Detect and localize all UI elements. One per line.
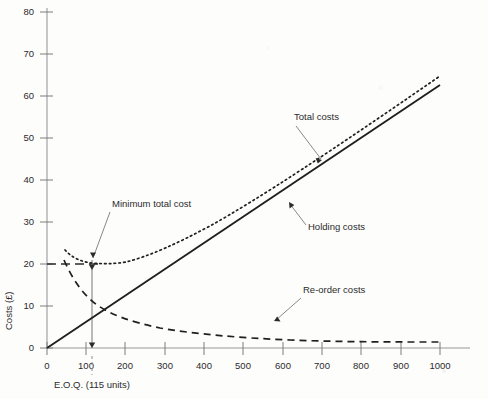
x-tick-label-700: 700 <box>314 360 330 371</box>
series-reorder-costs <box>64 260 440 342</box>
series-holding-costs <box>47 85 440 348</box>
annotation-label-holding-costs: Holding costs <box>308 221 365 232</box>
y-tick-label-70: 70 <box>23 48 34 59</box>
x-axis-tick-labels: 0 100 200 300 400 500 600 700 800 900 10… <box>44 360 450 371</box>
y-tick-label-10: 10 <box>23 300 34 311</box>
x-tick-label-300: 300 <box>157 360 173 371</box>
annotation-reorder-costs: Re-order costs <box>274 284 366 322</box>
y-tick-label-0: 0 <box>29 342 34 353</box>
leader-line-total-costs <box>296 126 321 159</box>
leader-line-reorder-costs <box>276 298 301 320</box>
arrowhead-minimum-total-cost <box>90 253 96 259</box>
y-axis-tick-labels: 80 70 60 50 40 30 20 10 0 <box>23 6 34 353</box>
eoq-label: E.O.Q. (115 units) <box>54 379 130 390</box>
y-tick-label-40: 40 <box>23 174 34 185</box>
y-tick-label-30: 30 <box>23 216 34 227</box>
y-tick-label-60: 60 <box>23 90 34 101</box>
arrowhead-eoq-axis <box>89 343 95 348</box>
annotation-total-costs: Total costs <box>294 111 339 164</box>
y-tick-label-80: 80 <box>23 6 34 17</box>
x-tick-label-600: 600 <box>275 360 291 371</box>
axes <box>47 8 470 349</box>
annotation-label-reorder-costs: Re-order costs <box>303 284 366 295</box>
x-tick-label-900: 900 <box>393 360 409 371</box>
annotation-label-total-costs: Total costs <box>294 111 339 122</box>
y-tick-label-20: 20 <box>23 258 34 269</box>
eoq-cost-chart: 80 70 60 50 40 30 20 10 0 0 100 200 300 … <box>0 0 488 399</box>
x-tick-label-200: 200 <box>117 360 133 371</box>
y-axis-title: Costs (£) <box>3 291 14 330</box>
annotation-label-minimum-total-cost: Minimum total cost <box>112 198 192 209</box>
annotation-minimum-total-cost: Minimum total cost <box>89 198 192 270</box>
leader-line-minimum-total-cost <box>93 212 110 258</box>
leader-line-holding-costs <box>290 204 306 225</box>
x-tick-label-1000: 1000 <box>429 360 450 371</box>
annotation-holding-costs: Holding costs <box>289 202 365 232</box>
x-tick-label-800: 800 <box>353 360 369 371</box>
arrowhead-holding-costs <box>289 202 294 209</box>
y-tick-label-50: 50 <box>23 132 34 143</box>
series-total-costs <box>65 76 440 264</box>
x-tick-label-0: 0 <box>44 360 49 371</box>
x-tick-label-500: 500 <box>235 360 251 371</box>
x-tick-label-400: 400 <box>196 360 212 371</box>
arrowhead-minimum-total-cost-lower <box>89 265 95 271</box>
